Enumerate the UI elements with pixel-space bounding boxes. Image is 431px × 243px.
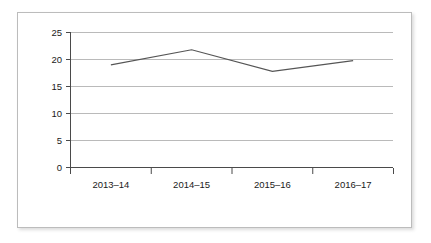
x-tick-label-2: 2015–16	[254, 179, 291, 190]
x-tick-label-1: 2014–15	[173, 179, 210, 190]
y-tick-label-20: 20	[51, 54, 62, 65]
x-tick-marks	[71, 168, 394, 174]
figure-root: 25 20 15 10 5 0 2013–14	[0, 0, 431, 243]
x-axis-tick-labels: 2013–14 2014–15 2015–16 2016–17	[92, 179, 371, 190]
y-tick-label-15: 15	[51, 81, 62, 92]
y-tick-label-5: 5	[57, 135, 62, 146]
y-axis-tick-labels: 25 20 15 10 5 0	[51, 27, 62, 173]
y-tick-label-25: 25	[51, 27, 62, 38]
y-tick-label-10: 10	[51, 108, 62, 119]
line-chart: 25 20 15 10 5 0 2013–14	[18, 13, 413, 229]
data-series-line	[111, 50, 353, 72]
axes	[70, 32, 393, 168]
y-tick-marks	[66, 33, 70, 168]
y-tick-label-0: 0	[57, 162, 62, 173]
data-series-group	[111, 50, 353, 72]
x-tick-label-0: 2013–14	[92, 179, 129, 190]
gridlines	[70, 33, 393, 141]
x-tick-label-3: 2016–17	[335, 179, 372, 190]
chart-card: 25 20 15 10 5 0 2013–14	[17, 12, 412, 228]
chart-svg: 25 20 15 10 5 0 2013–14	[18, 13, 413, 229]
